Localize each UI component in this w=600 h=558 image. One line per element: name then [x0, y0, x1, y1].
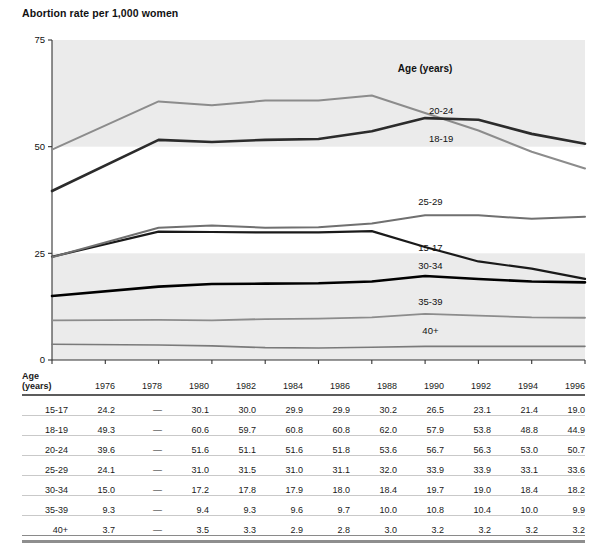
x-tick-label: 1984: [255, 367, 276, 370]
table-cell: 19.7: [397, 476, 444, 496]
table-col-header-1986: 1986: [303, 372, 350, 395]
table-bottom-rule: [22, 540, 585, 543]
table-row: 15-1724.2—30.130.029.929.930.226.523.121…: [22, 395, 585, 416]
table-cell: 51.1: [209, 436, 256, 456]
table-cell: 23.1: [444, 395, 491, 416]
table-col-header-1980: 1980: [162, 372, 209, 395]
table-cell: 10.0: [350, 496, 397, 516]
data-table-container: Age (years) 1976197819801982198419861988…: [22, 372, 585, 536]
table-cell: 17.8: [209, 476, 256, 496]
table-cell: 30.1: [162, 395, 209, 416]
plot-bands: [52, 40, 585, 360]
series-line-25-29: [52, 215, 585, 257]
table-row-label: 20-24: [22, 436, 68, 456]
table-row: 35-399.3—9.49.39.69.710.010.810.410.09.9: [22, 496, 585, 516]
table-row: 20-2439.6—51.651.151.651.853.656.756.353…: [22, 436, 585, 456]
x-tick-label: 1976: [41, 367, 62, 370]
series-inline-label-20-24: 20-24: [429, 105, 453, 116]
table-cell: 9.3: [68, 496, 115, 516]
table-row-label: 35-39: [22, 496, 68, 516]
x-tick-label: 1990: [415, 367, 436, 370]
table-cell: —: [115, 395, 162, 416]
x-tick-label: 1982: [201, 367, 222, 370]
data-table-head: Age (years) 1976197819801982198419861988…: [22, 372, 585, 395]
table-row: 40+3.7—3.53.32.92.83.03.23.23.23.2: [22, 516, 585, 536]
table-cell: 53.6: [350, 436, 397, 456]
table-cell: 48.8: [491, 416, 538, 436]
table-row-label: 40+: [22, 516, 68, 536]
table-col-header-1976: 1976: [68, 372, 115, 395]
table-cell: 50.7: [538, 436, 585, 456]
table-cell: 60.6: [162, 416, 209, 436]
table-cell: 30.0: [209, 395, 256, 416]
corner-header-line2: (years): [22, 381, 52, 391]
table-cell: 3.2: [397, 516, 444, 536]
data-table: Age (years) 1976197819801982198419861988…: [22, 372, 585, 536]
table-cell: 31.5: [209, 456, 256, 476]
table-corner-header: Age (years): [22, 372, 68, 395]
table-col-header-1992: 1992: [444, 372, 491, 395]
table-row-label: 30-34: [22, 476, 68, 496]
table-cell: —: [115, 496, 162, 516]
series-inline-label-25-29: 25-29: [418, 196, 442, 207]
table-cell: 3.3: [209, 516, 256, 536]
y-tick-label: 75: [34, 34, 45, 45]
table-row-label: 15-17: [22, 395, 68, 416]
x-tick-label: 1992: [468, 367, 489, 370]
y-tick-label: 0: [40, 354, 45, 365]
table-cell: 31.0: [162, 456, 209, 476]
plot-x-tick-labels: 1976197819801982198419861988199019921994…: [41, 367, 595, 370]
table-cell: 9.7: [303, 496, 350, 516]
table-cell: 56.3: [444, 436, 491, 456]
series-inline-label-age--years-: Age (years): [398, 63, 452, 74]
table-cell: 19.0: [538, 395, 585, 416]
table-row: 25-2924.1—31.031.531.031.132.033.933.933…: [22, 456, 585, 476]
table-cell: 51.6: [256, 436, 303, 456]
table-cell: 51.6: [162, 436, 209, 456]
table-cell: 3.0: [350, 516, 397, 536]
y-tick-label: 50: [34, 141, 45, 152]
table-cell: —: [115, 476, 162, 496]
table-cell: 29.9: [256, 395, 303, 416]
figure-abortion-rate-by-age: Abortion rate per 1,000 women 0255075 19…: [0, 0, 600, 558]
data-table-body: 15-1724.2—30.130.029.929.930.226.523.121…: [22, 395, 585, 536]
table-col-header-1988: 1988: [350, 372, 397, 395]
table-cell: 51.8: [303, 436, 350, 456]
table-cell: 3.2: [491, 516, 538, 536]
table-cell: —: [115, 416, 162, 436]
table-col-header-1978: 1978: [115, 372, 162, 395]
table-cell: 62.0: [350, 416, 397, 436]
table-cell: 2.9: [256, 516, 303, 536]
table-cell: 10.8: [397, 496, 444, 516]
table-cell: 30.2: [350, 395, 397, 416]
table-cell: 9.6: [256, 496, 303, 516]
table-cell: 3.5: [162, 516, 209, 536]
table-cell: 18.4: [491, 476, 538, 496]
table-row: 30-3415.0—17.217.817.918.018.419.719.018…: [22, 476, 585, 496]
table-cell: 33.9: [397, 456, 444, 476]
table-cell: 9.3: [209, 496, 256, 516]
table-cell: 18.0: [303, 476, 350, 496]
table-cell: —: [115, 436, 162, 456]
y-tick-label: 25: [34, 248, 45, 259]
table-cell: 32.0: [350, 456, 397, 476]
line-chart-svg: 0255075 19761978198019821984198619881990…: [0, 30, 600, 370]
table-cell: 31.1: [303, 456, 350, 476]
table-cell: 17.2: [162, 476, 209, 496]
table-cell: 60.8: [303, 416, 350, 436]
table-cell: 24.2: [68, 395, 115, 416]
table-col-header-1994: 1994: [491, 372, 538, 395]
table-cell: 19.0: [444, 476, 491, 496]
table-cell: 10.4: [444, 496, 491, 516]
table-cell: 44.9: [538, 416, 585, 436]
table-cell: 2.8: [303, 516, 350, 536]
table-cell: —: [115, 516, 162, 536]
table-cell: 60.8: [256, 416, 303, 436]
table-cell: 15.0: [68, 476, 115, 496]
series-inline-label-15-17: 15-17: [418, 242, 442, 253]
table-cell: 56.7: [397, 436, 444, 456]
table-cell: 24.1: [68, 456, 115, 476]
table-col-header-1982: 1982: [209, 372, 256, 395]
table-row: 18-1949.3—60.659.760.860.862.057.953.848…: [22, 416, 585, 436]
x-tick-label: 1978: [95, 367, 116, 370]
